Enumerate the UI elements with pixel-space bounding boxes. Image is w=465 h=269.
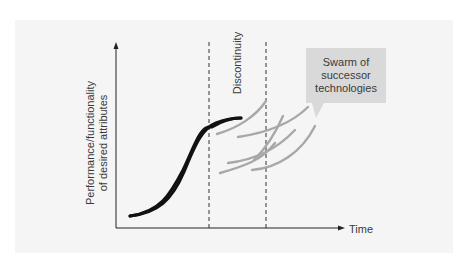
discontinuity-label: Discontinuity — [231, 32, 243, 94]
y-axis-label-line1: Performance/functionality — [84, 81, 97, 205]
callout-line2: successor — [321, 69, 371, 82]
y-axis-arrow-icon — [114, 42, 119, 49]
callout-line3: technologies — [315, 82, 377, 95]
successor-technologies-callout: Swarm of successor technologies — [306, 48, 386, 103]
x-axis-arrow-icon — [338, 226, 345, 231]
y-axis-label-line2: of desired attributes — [97, 81, 110, 205]
x-axis-label: Time — [349, 223, 373, 235]
successor-curve-2 — [238, 107, 308, 137]
y-axis-label: Performance/functionality of desired att… — [84, 81, 110, 205]
callout-line1: Swarm of — [323, 56, 369, 69]
callout-tail — [312, 103, 324, 118]
successor-curve-3 — [254, 116, 283, 160]
